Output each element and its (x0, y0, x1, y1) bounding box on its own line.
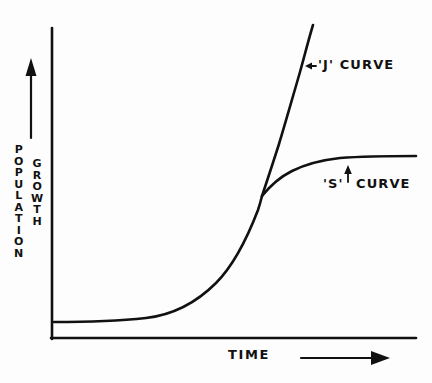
annotation-s-curve-label-lead: 'S' (323, 177, 344, 190)
x-axis-label: TIME (228, 348, 270, 361)
j-curve-path (262, 25, 313, 196)
shared-growth-trunk (54, 196, 262, 322)
left-arrow-icon (305, 63, 316, 70)
annotation-j-curve-label: 'J' CURVE (318, 58, 394, 71)
right-arrow-icon (301, 351, 390, 365)
y-axis-label-growth: GROWTH (31, 158, 43, 227)
up-arrow-icon (26, 58, 37, 138)
population-growth-figure: 'J' CURVE 'S' CURVE TIME POPULATION GROW… (0, 0, 432, 383)
y-axis-label-population: POPULATION (14, 144, 23, 259)
up-arrow-icon-s-curve (344, 165, 352, 182)
annotation-s-curve-label-trail: CURVE (356, 177, 411, 190)
